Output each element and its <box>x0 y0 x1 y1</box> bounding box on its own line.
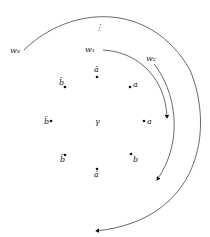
label-w2: w₂ <box>146 54 156 63</box>
node-dot-top-right <box>129 86 132 89</box>
node-dot-top <box>96 76 99 79</box>
node-dot-right <box>143 120 146 123</box>
node-label-top: ā <box>94 65 99 74</box>
node-label-bottom-right: b <box>133 155 138 164</box>
node-label-top-right: a <box>133 80 138 89</box>
winding-diagram: ⋮ w₁ w₂ w₃ ā a a b ā b̄ b̄ b̄ γ <box>0 0 210 237</box>
node-dot-left <box>50 120 53 123</box>
node-label-top-left: b̄ <box>59 77 64 87</box>
node-label-left: b̄ <box>44 116 49 126</box>
ellipsis: ⋮ <box>95 23 103 32</box>
label-w3: w₃ <box>10 46 20 55</box>
node-label-bottom-left: b̄ <box>60 154 65 164</box>
label-w1: w₁ <box>85 45 95 54</box>
node-dot-bottom-right <box>130 153 133 156</box>
center-label: γ <box>95 117 100 126</box>
node-label-right: a <box>147 117 152 126</box>
node-label-bottom: ā <box>94 170 99 179</box>
